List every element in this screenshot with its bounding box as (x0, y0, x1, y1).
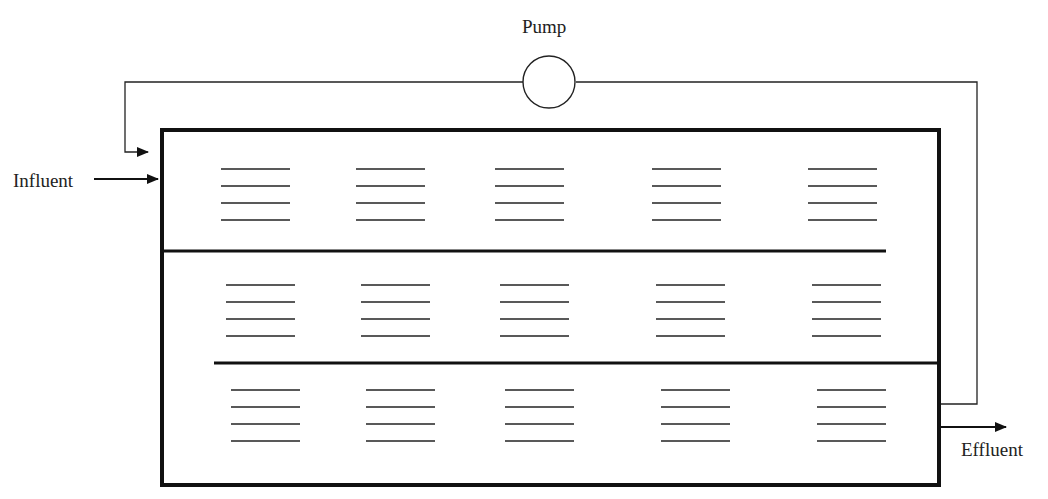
media-group (661, 390, 730, 441)
reactor-tank (162, 130, 939, 485)
influent-label: Influent (13, 170, 73, 192)
media-group (812, 285, 881, 336)
media-group (226, 285, 295, 336)
media-group (652, 169, 721, 220)
pump-label: Pump (522, 16, 566, 38)
media-group (500, 285, 569, 336)
media-groups (221, 169, 886, 441)
baffled-reactor-diagram (0, 0, 1048, 499)
media-group (221, 169, 290, 220)
media-group (361, 285, 430, 336)
media-group (817, 390, 886, 441)
media-group (495, 169, 564, 220)
media-group (656, 285, 725, 336)
media-group (231, 390, 300, 441)
media-group (808, 169, 877, 220)
media-group (356, 169, 425, 220)
media-group (505, 390, 574, 441)
pump-icon (523, 56, 575, 108)
media-group (366, 390, 435, 441)
effluent-label: Effluent (961, 439, 1023, 461)
